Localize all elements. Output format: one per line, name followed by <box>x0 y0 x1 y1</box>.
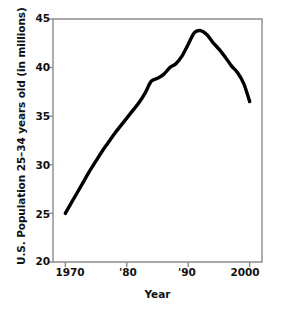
y-tick-label: 40 <box>28 62 50 73</box>
x-axis-label: Year <box>53 288 262 300</box>
y-tick-label: 45 <box>28 13 50 24</box>
y-tick-label: 25 <box>28 209 50 220</box>
x-tick-1980: '80 <box>105 266 151 278</box>
y-tick-marks <box>48 19 53 262</box>
y-tick-35: 35 <box>26 111 50 123</box>
y-axis-label: U.S. Population 25–34 years old (in mill… <box>15 15 27 265</box>
data-line-us-population-25-34 <box>65 31 249 214</box>
x-tick-1970: 1970 <box>47 266 93 278</box>
y-tick-45: 45 <box>26 13 50 25</box>
x-tick-2000: 2000 <box>222 266 268 278</box>
chart-figure: U.S. Population 25–34 years old (in mill… <box>0 0 281 316</box>
y-tick-25: 25 <box>26 209 50 221</box>
axis-frame <box>53 19 262 262</box>
x-tick-1990: '90 <box>164 266 210 278</box>
y-tick-label: 20 <box>28 256 50 267</box>
y-tick-30: 30 <box>26 160 50 172</box>
y-tick-label: 35 <box>28 111 50 122</box>
y-tick-label: 30 <box>28 160 50 171</box>
y-tick-40: 40 <box>26 62 50 74</box>
